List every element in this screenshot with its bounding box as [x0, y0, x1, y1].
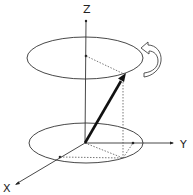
origin-to-base-dotted	[85, 143, 123, 158]
z-axis	[85, 21, 86, 143]
rotation-arrow-icon	[141, 42, 161, 77]
z-axis-label: Z	[83, 3, 91, 16]
z-axis-tip-marker	[85, 20, 87, 22]
y-axis-arrowhead	[170, 141, 174, 144]
x-axis-label: X	[3, 182, 11, 195]
base-to-y-dotted	[123, 143, 133, 158]
x-to-base-dotted	[60, 157, 123, 158]
y-axis-label: Y	[179, 138, 187, 151]
z-to-tip-dotted	[86, 56, 124, 74]
vector-rotation-diagram: Z Y X	[0, 0, 193, 195]
vector-shaft	[85, 81, 121, 143]
top-ellipse	[27, 37, 143, 79]
x-axis	[16, 143, 85, 184]
